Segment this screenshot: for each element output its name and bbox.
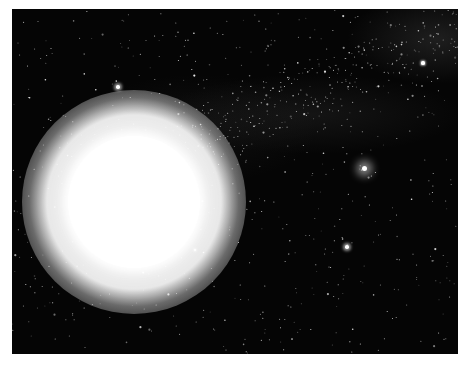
lower-right-star [345, 245, 349, 249]
upper-left-star [116, 85, 120, 89]
upper-right-star [421, 61, 424, 64]
right-bright-star [362, 166, 367, 171]
image-canvas [0, 0, 470, 366]
sun [68, 136, 200, 268]
night-sky [12, 9, 458, 354]
